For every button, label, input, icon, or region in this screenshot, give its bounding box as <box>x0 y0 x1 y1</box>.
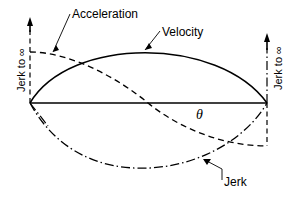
left-jerk-arrow-head <box>27 17 33 26</box>
acceleration-curve <box>30 52 267 146</box>
theta-axis-label: θ <box>196 108 203 122</box>
right-jerk-arrow-head <box>264 33 270 42</box>
jerk-leader-arrow <box>203 159 211 165</box>
acceleration-leader-arrow <box>53 45 59 52</box>
curves-canvas <box>0 0 295 200</box>
right-jerk-to-infinity-label: Jerk to ∞ <box>273 46 284 90</box>
velocity-leader-arrow <box>145 43 152 50</box>
velocity-curve <box>30 53 267 103</box>
velocity-label: Velocity <box>162 26 203 38</box>
left-jerk-to-infinity-label: Jerk to ∞ <box>16 48 27 92</box>
jerk-curve <box>30 103 267 168</box>
left-jerk-asymptote <box>30 103 48 126</box>
motion-curves-figure: Acceleration Velocity Jerk θ Jerk to ∞ J… <box>0 0 295 200</box>
jerk-label: Jerk <box>224 176 247 188</box>
acceleration-label: Acceleration <box>72 8 138 20</box>
